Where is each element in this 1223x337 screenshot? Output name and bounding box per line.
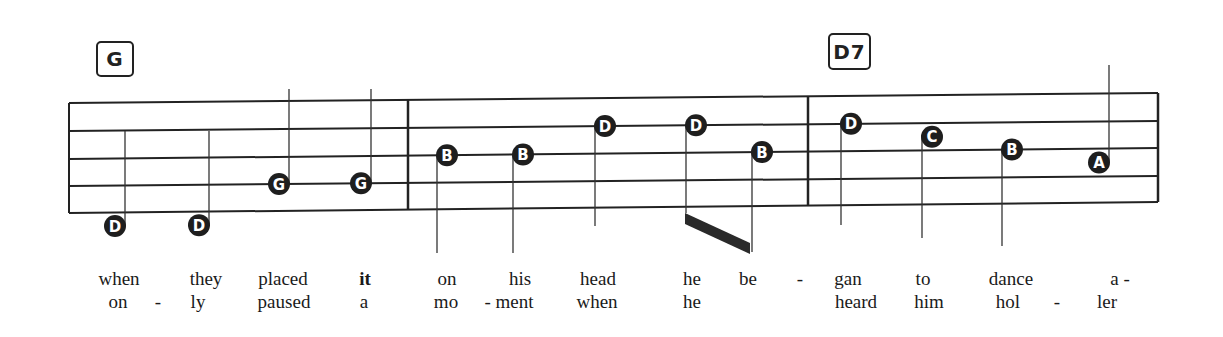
chord-label: G	[106, 47, 123, 71]
lyric-syllable: placed	[258, 268, 308, 290]
note-letter: C	[926, 128, 937, 146]
lyrics-verse-2: on-lypausedamo- mentwhenheheardhimhol-le…	[0, 291, 1223, 313]
chord-symbol-d7: D7	[828, 33, 871, 70]
lyric-syllable: on	[438, 268, 457, 290]
lyric-syllable: hol	[996, 291, 1020, 313]
note-letter: B	[1006, 141, 1017, 159]
lyric-syllable: when	[576, 291, 617, 313]
note-letter: D	[193, 217, 205, 235]
lyric-syllable: head	[580, 268, 616, 290]
staff-line	[69, 148, 1158, 159]
lyric-syllable: to	[916, 268, 931, 290]
note-letter: G	[355, 175, 367, 193]
chord-label: D7	[833, 40, 866, 64]
lyric-syllable: -	[155, 291, 161, 313]
lyric-syllable: -	[797, 268, 803, 290]
lyric-syllable: it	[359, 268, 371, 290]
lyric-syllable: paused	[258, 291, 311, 313]
lyric-syllable: him	[914, 291, 944, 313]
lyric-syllable: mo	[434, 291, 458, 313]
chord-symbol-g: G	[96, 41, 134, 77]
lyric-syllable: his	[509, 268, 531, 290]
lyric-syllable: a -	[1110, 268, 1130, 290]
note-letter: D	[109, 218, 121, 236]
lyric-syllable: ler	[1097, 291, 1117, 313]
note-letter: B	[756, 144, 767, 162]
lyric-syllable: he	[683, 291, 701, 313]
lyric-syllable: heard	[835, 291, 877, 313]
lyrics-verse-1: whentheyplaceditonhisheadhebe-gantodance…	[0, 268, 1223, 290]
lyric-syllable: - ment	[484, 291, 533, 313]
note-letter: A	[1093, 154, 1105, 172]
note-letter: D	[599, 118, 611, 136]
lyric-syllable: -	[1054, 291, 1060, 313]
note-letter: B	[517, 146, 528, 164]
lyric-syllable: on	[109, 291, 128, 313]
lyric-syllable: dance	[989, 268, 1033, 290]
note-letter: D	[845, 115, 857, 133]
note-letter: G	[273, 176, 285, 194]
lyric-syllable: when	[98, 268, 139, 290]
note-letter: B	[441, 147, 452, 165]
staff-line	[69, 93, 1158, 103]
lyric-syllable: ly	[191, 291, 206, 313]
lyric-syllable: they	[190, 268, 223, 290]
lyric-syllable: a	[360, 291, 368, 313]
lyric-syllable: gan	[834, 268, 861, 290]
note-letter: D	[690, 117, 702, 135]
lyric-syllable: he	[683, 268, 701, 290]
staff-line	[69, 176, 1158, 186]
staff-line	[69, 202, 1158, 213]
eighth-note-beam	[685, 213, 750, 254]
lyric-syllable: be	[739, 268, 757, 290]
